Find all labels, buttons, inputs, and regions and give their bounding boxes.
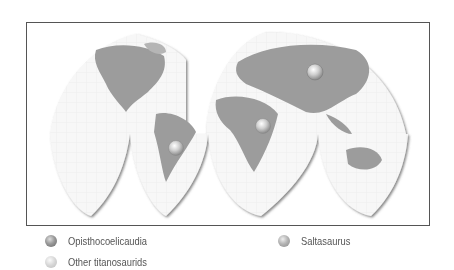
legend-item-saltasaurus: Saltasaurus — [278, 235, 359, 247]
legend-label: Other titanosaurids — [68, 256, 147, 268]
legend-item-other-titanosaurids: Other titanosaurids — [45, 256, 161, 268]
saltasaurus-marker — [169, 141, 184, 156]
opisthocoelicaudia-marker — [307, 64, 323, 80]
world-map — [26, 22, 430, 226]
legend-label: Saltasaurus — [301, 235, 350, 247]
legend-item-opisthocoelicaudia: Opisthocoelicaudia — [45, 235, 161, 247]
light-sphere-icon — [45, 256, 57, 268]
other-titanosaurids-marker — [256, 119, 271, 134]
dark-sphere-icon — [45, 235, 57, 247]
medium-sphere-icon — [278, 235, 290, 247]
legend-label: Opisthocoelicaudia — [68, 235, 147, 247]
